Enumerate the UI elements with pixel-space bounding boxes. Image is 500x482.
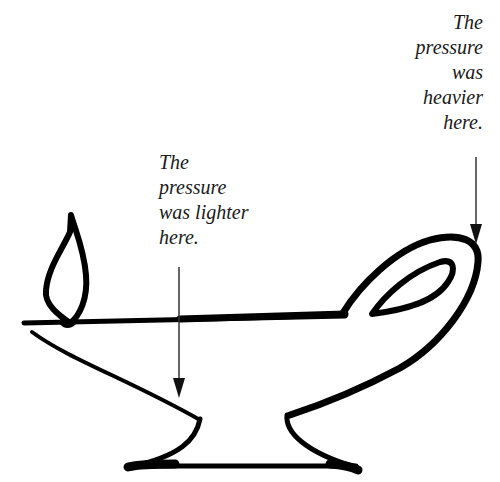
arrow-heavier-icon: [470, 157, 482, 244]
bowl-left: [32, 332, 200, 420]
lamp-icon: [24, 215, 478, 470]
annotation-lighter-line: was lighter: [159, 200, 248, 225]
annotation-heavier-line: here.: [416, 110, 483, 135]
annotation-heavier-line: was: [416, 60, 483, 85]
annotation-heavier-line: pressure: [416, 35, 483, 60]
diagram-canvas: The pressure was heavier here. The press…: [0, 0, 500, 482]
annotation-heavier-line: heavier: [416, 85, 483, 110]
arrow-lighter-icon: [173, 267, 185, 398]
annotation-heavier-line: The: [416, 10, 483, 35]
annotation-lighter-line: here.: [159, 225, 248, 250]
annotation-lighter: The pressure was lighter here.: [159, 150, 248, 250]
annotation-lighter-line: pressure: [159, 175, 248, 200]
annotation-lighter-line: The: [159, 150, 248, 175]
base-right: [287, 415, 355, 467]
flame-shape: [46, 215, 86, 323]
annotation-heavier: The pressure was heavier here.: [416, 10, 483, 135]
